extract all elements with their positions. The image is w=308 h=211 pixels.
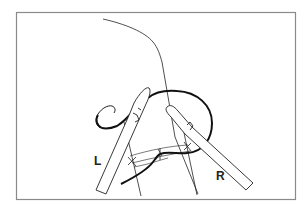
label-right-instrument: R <box>216 169 225 183</box>
figure-frame <box>17 13 296 200</box>
left-holder-shaft <box>96 88 150 194</box>
label-left-instrument: L <box>94 154 101 168</box>
left-needle-holder <box>96 88 150 194</box>
suture-thread-tail <box>121 154 160 184</box>
suture-illustration: L R <box>0 0 308 211</box>
